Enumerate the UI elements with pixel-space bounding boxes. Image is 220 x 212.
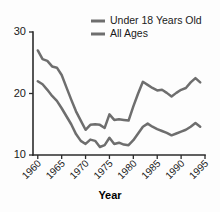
x-tick-label: 1975 (91, 157, 115, 181)
x-tick-label: 1960 (20, 157, 44, 181)
x-axis-title: Year (98, 189, 122, 201)
series-line-1 (38, 81, 200, 147)
x-tick-label: 1990 (163, 157, 187, 181)
legend-label-0: Under 18 Years Old (110, 14, 202, 26)
y-tick-label: 10 (14, 148, 26, 160)
line-chart: 102030 19601965197019751980198519901995 … (0, 0, 220, 212)
y-tick-label: 30 (14, 25, 26, 37)
axis-layer (29, 32, 205, 159)
x-tick-label: 1980 (115, 157, 139, 181)
x-tick-label: 1985 (139, 157, 163, 181)
x-tick-labels: 19601965197019751980198519901995 (20, 157, 211, 181)
chart-legend: Under 18 Years OldAll Ages (91, 14, 202, 39)
y-tick-labels: 102030 (14, 25, 26, 160)
legend-label-1: All Ages (110, 27, 148, 39)
series-line-0 (38, 50, 200, 129)
chart-canvas: 102030 19601965197019751980198519901995 … (0, 0, 220, 212)
x-tick-label: 1995 (187, 157, 211, 181)
x-tick-label: 1965 (44, 157, 68, 181)
y-tick-label: 20 (14, 87, 26, 99)
x-tick-label: 1970 (67, 157, 91, 181)
series-layer (38, 50, 200, 147)
